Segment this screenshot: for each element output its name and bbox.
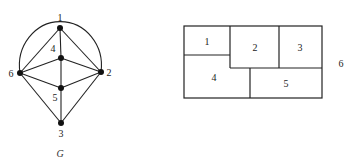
vertex-1 — [57, 25, 63, 31]
graph-caption: G — [56, 148, 63, 159]
vertex-2 — [98, 69, 104, 75]
vertex-label-4: 4 — [51, 43, 56, 54]
vertex-label-1: 1 — [58, 12, 63, 23]
region-label-2: 2 — [253, 42, 258, 53]
vertex-label-5: 5 — [53, 92, 58, 103]
vertex-label-2: 2 — [107, 67, 112, 78]
edge-1-4 — [60, 28, 61, 58]
rectangular-dual: 1 2 3 4 5 6 — [184, 26, 344, 98]
vertex-3 — [58, 120, 64, 126]
vertex-label-3: 3 — [59, 128, 64, 139]
region-label-4: 4 — [212, 72, 217, 83]
region-label-5: 5 — [284, 78, 289, 89]
region-label-3: 3 — [298, 42, 303, 53]
vertex-4 — [58, 55, 64, 61]
vertex-6 — [17, 70, 23, 76]
region-label-1: 1 — [205, 36, 210, 47]
vertex-5 — [58, 85, 64, 91]
outer-region-label-6: 6 — [339, 58, 344, 69]
figure: 1 2 3 4 5 6 G 1 2 3 4 5 6 — [0, 0, 352, 165]
graph-g: 1 2 3 4 5 6 G — [9, 12, 112, 159]
vertex-label-6: 6 — [9, 68, 14, 79]
